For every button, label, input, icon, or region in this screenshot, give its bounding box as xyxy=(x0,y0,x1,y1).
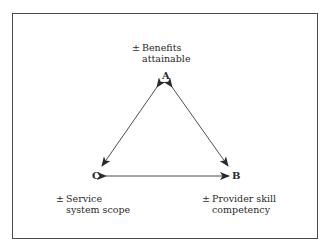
plus-minus-icon: ± xyxy=(56,193,66,204)
arrow-a-b xyxy=(172,87,228,166)
node-b: B xyxy=(232,171,240,181)
plus-minus-icon: ± xyxy=(202,193,212,204)
plus-minus-icon: ± xyxy=(132,42,142,53)
arrows-layer xyxy=(0,0,333,252)
label-line1: Benefits xyxy=(142,42,181,53)
label-line2: attainable xyxy=(132,53,191,64)
label-provider-skill-competency: ±Provider skill competency xyxy=(202,193,276,215)
label-benefits-attainable: ±Benefits attainable xyxy=(132,42,191,64)
label-line1: Service xyxy=(66,193,102,204)
label-line2: competency xyxy=(202,204,276,215)
label-line1: Provider skill xyxy=(212,193,276,204)
node-a: A xyxy=(162,71,170,81)
node-c: C xyxy=(92,171,100,181)
label-service-system-scope: ±Service system scope xyxy=(56,193,130,215)
arrow-a-c xyxy=(102,87,157,166)
label-line2: system scope xyxy=(56,204,130,215)
